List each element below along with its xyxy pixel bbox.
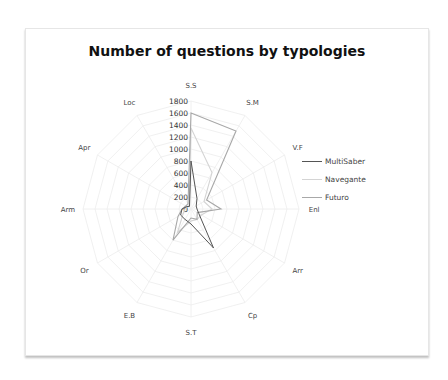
radial-tick-label: 800: [174, 157, 189, 166]
radial-tick-label: 1800: [169, 97, 188, 106]
radar-plot: S.SS.MV.FEnlArrCpS.TE.BOrArmAprLoc020040…: [0, 0, 448, 380]
axis-label: E.B: [124, 312, 136, 320]
radial-tick-label: 200: [174, 193, 189, 202]
radial-tick-label: 400: [174, 181, 189, 190]
legend-item-futuro: Futuro: [302, 188, 366, 206]
axis-label: Loc: [123, 99, 135, 107]
axis-spoke: [137, 209, 191, 303]
axis-label: Enl: [309, 206, 320, 214]
legend-item-navegante: Navegante: [302, 170, 366, 188]
axis-spoke: [191, 209, 285, 263]
legend: MultiSaber Navegante Futuro: [302, 152, 366, 206]
axis-spoke: [191, 155, 285, 209]
legend-item-multisaber: MultiSaber: [302, 152, 366, 170]
legend-line-icon: [302, 197, 322, 198]
radial-tick-label: 1000: [169, 145, 188, 154]
radial-tick-label: 600: [174, 169, 189, 178]
axis-label: Arr: [292, 267, 303, 275]
axis-spoke: [191, 115, 245, 209]
axis-label: Apr: [78, 144, 90, 152]
axis-label: Cp: [248, 312, 258, 320]
axis-label: V.F: [293, 144, 303, 152]
radial-tick-label: 1200: [169, 133, 188, 142]
axis-label: Or: [80, 267, 89, 275]
legend-line-icon: [302, 179, 322, 180]
legend-line-icon: [302, 161, 322, 162]
axis-label: S.M: [246, 99, 259, 107]
axis-label: S.S: [185, 82, 197, 90]
axis-label: Arm: [61, 206, 76, 214]
axis-spoke: [191, 209, 245, 303]
axis-label: S.T: [186, 329, 198, 337]
radial-tick-label: 1600: [169, 109, 188, 118]
radial-tick-label: 1400: [169, 121, 188, 130]
